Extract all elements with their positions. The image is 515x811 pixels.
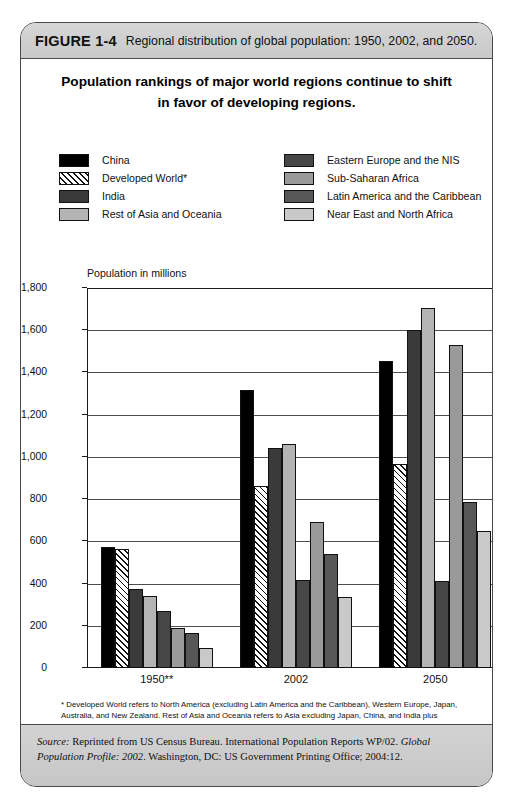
legend-swatch-icon bbox=[284, 190, 314, 203]
x-axis-labels: 1950**20022050 bbox=[87, 673, 493, 685]
legend-item-near-east-and-north-africa: Near East and North Africa bbox=[284, 205, 481, 223]
legend-label: Eastern Europe and the NIS bbox=[327, 154, 460, 166]
bar bbox=[101, 547, 115, 668]
bar bbox=[296, 580, 310, 668]
y-axis-tick-label: 800 bbox=[20, 493, 47, 504]
y-axis-tick-label: 1,400 bbox=[20, 366, 47, 377]
y-axis-tick-label: 1,200 bbox=[20, 409, 47, 420]
legend-swatch-icon bbox=[59, 190, 89, 203]
y-axis-tick-label: 1,800 bbox=[20, 282, 47, 293]
figure-frame: FIGURE 1-4 Regional distribution of glob… bbox=[20, 22, 493, 787]
legend-item-developed-world: Developed World* bbox=[59, 169, 284, 187]
bar bbox=[338, 597, 352, 668]
chart-title-line-2: in favor of developing regions. bbox=[21, 92, 492, 113]
figure-number: FIGURE 1-4 bbox=[35, 33, 117, 49]
legend-swatch-icon bbox=[59, 172, 89, 185]
bar bbox=[449, 345, 463, 668]
y-axis-tick-label: 200 bbox=[20, 620, 47, 631]
bar bbox=[240, 390, 254, 668]
figure-caption: Regional distribution of global populati… bbox=[126, 34, 477, 48]
legend-item-rest-of-asia-and-oceania: Rest of Asia and Oceania bbox=[59, 205, 284, 223]
bar bbox=[282, 444, 296, 668]
figure-page: FIGURE 1-4 Regional distribution of glob… bbox=[0, 0, 515, 811]
legend-swatch-icon bbox=[284, 208, 314, 221]
bar bbox=[463, 502, 477, 668]
x-axis-label: 2050 bbox=[366, 673, 493, 685]
source-label: Source: bbox=[37, 736, 70, 747]
plot-wrapper: 02004006008001,0001,2001,4001,6001,800 1… bbox=[49, 281, 493, 671]
y-axis-tick-label: 1,600 bbox=[20, 324, 47, 335]
legend-label: Sub-Saharan Africa bbox=[327, 172, 419, 184]
legend-item-india: India bbox=[59, 187, 284, 205]
legend-swatch-icon bbox=[284, 172, 314, 185]
legend-item-eastern-europe-and-the-nis: Eastern Europe and the NIS bbox=[284, 151, 481, 169]
bar bbox=[254, 486, 268, 668]
chart-legend: ChinaEastern Europe and the NISDeveloped… bbox=[59, 151, 479, 223]
source-text-2: . Washington, DC: US Government Printing… bbox=[143, 751, 402, 762]
footnote-line-1: * Developed World refers to North Americ… bbox=[61, 699, 459, 710]
bar bbox=[185, 633, 199, 668]
legend-label: China bbox=[102, 154, 130, 166]
bar bbox=[477, 531, 491, 668]
bar bbox=[393, 464, 407, 668]
legend-label: Rest of Asia and Oceania bbox=[102, 208, 222, 220]
legend-swatch-icon bbox=[59, 154, 89, 167]
bar bbox=[421, 308, 435, 668]
y-axis-tick-label: 400 bbox=[20, 578, 47, 589]
bar bbox=[115, 549, 129, 668]
legend-item-sub-saharan-africa: Sub-Saharan Africa bbox=[284, 169, 481, 187]
bar bbox=[199, 648, 213, 668]
bar-group-2050 bbox=[366, 288, 493, 668]
bar bbox=[310, 522, 324, 668]
bar bbox=[379, 361, 393, 668]
legend-item-china: China bbox=[59, 151, 284, 169]
y-axis-caption: Population in millions bbox=[87, 267, 187, 279]
y-axis-tick-label: 0 bbox=[20, 662, 47, 673]
legend-label: Latin America and the Caribbean bbox=[327, 190, 481, 202]
x-axis-label: 2002 bbox=[226, 673, 365, 685]
chart-title: Population rankings of major world regio… bbox=[21, 71, 492, 113]
y-axis-tick-label: 1,000 bbox=[20, 451, 47, 462]
legend-item-latin-america-and-the-caribbean: Latin America and the Caribbean bbox=[284, 187, 481, 205]
bar bbox=[435, 581, 449, 668]
bar bbox=[407, 330, 421, 668]
y-axis-tick-label: 600 bbox=[20, 535, 47, 546]
bar bbox=[171, 628, 185, 668]
bar bbox=[268, 448, 282, 668]
bar bbox=[129, 589, 143, 668]
figure-header: FIGURE 1-4 Regional distribution of glob… bbox=[21, 23, 492, 59]
bar-groups bbox=[87, 288, 493, 668]
x-axis-label: 1950** bbox=[87, 673, 226, 685]
bar bbox=[324, 554, 338, 668]
source-text: Source: Reprinted from US Census Bureau.… bbox=[37, 734, 476, 765]
source-bar: Source: Reprinted from US Census Bureau.… bbox=[21, 724, 492, 786]
legend-swatch-icon bbox=[59, 208, 89, 221]
bar-group-1950 bbox=[87, 288, 226, 668]
legend-swatch-icon bbox=[284, 154, 314, 167]
chart-title-line-1: Population rankings of major world regio… bbox=[21, 71, 492, 92]
bar bbox=[157, 611, 171, 668]
legend-label: Developed World* bbox=[102, 172, 187, 184]
bar bbox=[143, 596, 157, 668]
bar-group-2002 bbox=[226, 288, 365, 668]
legend-label: Near East and North Africa bbox=[327, 208, 453, 220]
source-text-1: Reprinted from US Census Bureau. Interna… bbox=[70, 736, 401, 747]
legend-label: India bbox=[102, 190, 125, 202]
